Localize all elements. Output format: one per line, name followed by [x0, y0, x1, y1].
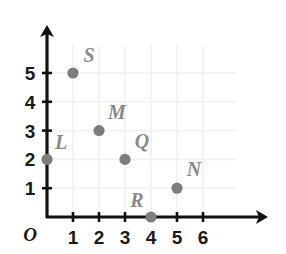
x-axis-tick-label: 3	[120, 227, 131, 248]
y-axis-tick-label: 2	[25, 149, 36, 170]
data-point-label-q: Q	[135, 130, 149, 152]
x-axis-tick-label: 1	[68, 227, 79, 248]
origin-label-group: O	[23, 224, 37, 245]
axes-group	[40, 25, 268, 224]
y-axis-tick-label: 4	[25, 92, 36, 113]
y-axis-tick-label: 5	[25, 63, 36, 84]
x-axis-tick-label: 6	[198, 227, 209, 248]
x-axis-tick-label: 4	[146, 227, 157, 248]
data-point-q	[119, 154, 130, 165]
data-point-s	[67, 67, 78, 78]
data-point-r	[145, 211, 156, 222]
data-point-label-s: S	[83, 44, 94, 66]
origin-label: O	[23, 224, 37, 245]
coordinate-plane-figure: · 12345654321 O LSMQRN	[0, 0, 286, 254]
data-point-label-n: N	[186, 158, 203, 180]
coordinate-plane-svg: 12345654321 O LSMQRN	[0, 0, 286, 254]
data-points-group: LSMQRN	[41, 44, 202, 223]
x-axis-tick-label: 5	[172, 227, 183, 248]
y-axis-tick-label: 1	[25, 178, 36, 199]
x-axis-tick-label: 2	[94, 227, 105, 248]
y-axis-tick-label: 3	[25, 121, 36, 142]
data-point-l	[41, 154, 52, 165]
data-point-m	[93, 125, 104, 136]
data-point-label-m: M	[107, 101, 127, 123]
data-point-label-l: L	[54, 131, 67, 153]
data-point-n	[171, 183, 182, 194]
tick-labels-group: 12345654321	[25, 63, 209, 248]
data-point-label-r: R	[129, 189, 143, 211]
